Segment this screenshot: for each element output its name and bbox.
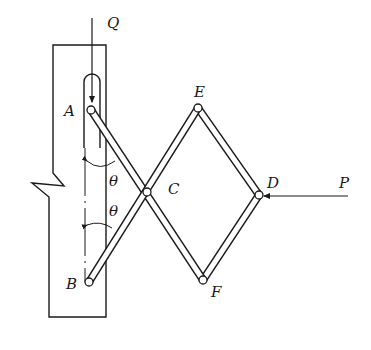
pin-f: [199, 276, 207, 284]
label-p: P: [339, 176, 349, 191]
bar-e-d: [198, 108, 259, 195]
label-theta-upper: θ: [109, 174, 118, 189]
label-d: D: [267, 176, 279, 191]
bar-d-f: [203, 195, 259, 280]
label-theta-lower: θ: [109, 204, 118, 219]
pin-a: [87, 106, 95, 114]
pin-c: [143, 188, 151, 196]
diagram-canvas: [0, 0, 371, 350]
label-b: B: [66, 277, 77, 292]
label-c: C: [168, 182, 179, 197]
angle-arc-upper: [87, 161, 115, 167]
label-e: E: [194, 85, 205, 100]
label-q: Q: [107, 16, 119, 31]
linkage-diagram: Q A E C D P B F θ θ: [0, 0, 371, 350]
pin-d: [255, 191, 263, 199]
angle-arc-lower: [87, 223, 112, 228]
label-f: F: [211, 285, 221, 300]
pin-b: [85, 278, 93, 286]
label-a: A: [64, 104, 75, 119]
pin-e: [194, 104, 202, 112]
